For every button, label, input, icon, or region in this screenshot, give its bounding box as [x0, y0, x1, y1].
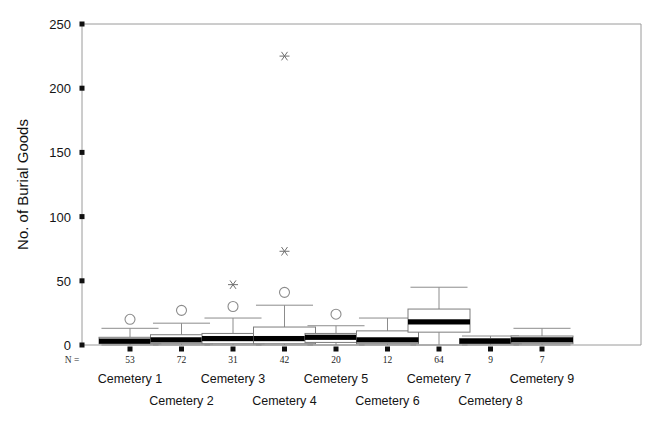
- n-equals-label: N =: [65, 355, 80, 365]
- y-axis-title: No. of Burial Goods: [14, 119, 31, 250]
- category-label-3: Cemetery 3: [201, 372, 266, 386]
- y-tick-mark: [80, 343, 85, 348]
- y-tick-label-100: 100: [49, 210, 71, 225]
- category-label-9: Cemetery 9: [510, 372, 575, 386]
- outlier-circle-1: [228, 301, 238, 311]
- x-tick-mark-5: [334, 347, 339, 352]
- n-value-5: 20: [331, 355, 341, 365]
- x-tick-mark-7: [437, 347, 442, 352]
- y-tick-mark: [80, 214, 85, 219]
- n-value-8: 9: [488, 355, 493, 365]
- n-value-2: 72: [177, 355, 187, 365]
- outlier-circle-1: [125, 314, 135, 324]
- box-plot-group-9: [511, 328, 573, 345]
- category-label-7: Cemetery 7: [407, 372, 472, 386]
- category-label-1: Cemetery 1: [98, 372, 163, 386]
- box-plot-chart: 050100150200250No. of Burial Goods537231…: [0, 0, 665, 433]
- y-tick-label-250: 250: [49, 17, 71, 32]
- median-line: [511, 337, 573, 342]
- outlier-circle-1: [177, 305, 187, 315]
- x-tick-mark-6: [385, 347, 390, 352]
- x-tick-mark-2: [179, 347, 184, 352]
- category-label-4: Cemetery 4: [252, 394, 317, 408]
- y-tick-label-50: 50: [57, 274, 71, 289]
- y-tick-label-200: 200: [49, 81, 71, 96]
- n-value-9: 7: [540, 355, 545, 365]
- n-value-1: 53: [125, 355, 135, 365]
- y-tick-label-0: 0: [64, 338, 71, 353]
- median-line: [408, 319, 470, 324]
- category-label-8: Cemetery 8: [458, 394, 523, 408]
- chart-canvas: 050100150200250No. of Burial Goods537231…: [0, 0, 665, 433]
- y-tick-mark: [80, 86, 85, 91]
- category-label-6: Cemetery 6: [355, 394, 420, 408]
- n-value-4: 42: [280, 355, 290, 365]
- outlier-circle-1: [331, 309, 341, 319]
- x-tick-mark-4: [282, 347, 287, 352]
- y-tick-mark: [80, 278, 85, 283]
- y-tick-label-150: 150: [49, 145, 71, 160]
- n-value-3: 31: [228, 355, 238, 365]
- y-tick-mark: [80, 22, 85, 27]
- n-value-7: 64: [434, 355, 444, 365]
- x-tick-mark-3: [231, 347, 236, 352]
- x-tick-mark-8: [488, 347, 493, 352]
- outlier-circle-1: [280, 287, 290, 297]
- box-plot-group-4: [254, 52, 316, 345]
- category-label-2: Cemetery 2: [149, 394, 214, 408]
- x-tick-mark-1: [128, 347, 133, 352]
- x-tick-mark-9: [540, 347, 545, 352]
- plot-frame: [82, 24, 641, 345]
- category-label-5: Cemetery 5: [304, 372, 369, 386]
- median-line: [357, 337, 419, 342]
- y-tick-mark: [80, 150, 85, 155]
- n-value-6: 12: [383, 355, 393, 365]
